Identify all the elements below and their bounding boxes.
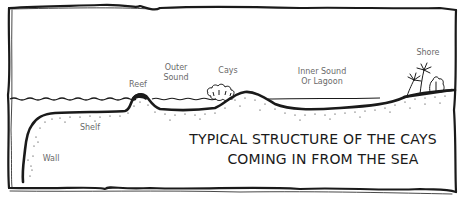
label-inner-sound-line2: Or Lagoon	[290, 77, 354, 87]
label-wall: Wall	[38, 154, 64, 164]
label-inner-sound-line1: Inner Sound	[290, 67, 354, 77]
sea-surface-outer	[10, 98, 136, 100]
label-outer-sound: Outer Sound	[156, 63, 196, 83]
label-shore: Shore	[411, 48, 445, 58]
sea-surface-inner-sound	[268, 98, 380, 99]
label-outer-sound-line2: Sound	[156, 73, 196, 83]
diagram-title-line2: COMING IN FROM THE SEA	[190, 149, 456, 169]
label-outer-sound-line1: Outer	[156, 63, 196, 73]
diagram-title-line1: TYPICAL STRUCTURE OF THE CAYS	[168, 129, 458, 149]
label-inner-sound: Inner Sound Or Lagoon	[290, 67, 354, 87]
label-cays: Cays	[214, 66, 242, 76]
label-reef: Reef	[125, 80, 151, 90]
sea-surface-outer-sound	[152, 98, 216, 100]
label-shelf: Shelf	[75, 123, 105, 133]
